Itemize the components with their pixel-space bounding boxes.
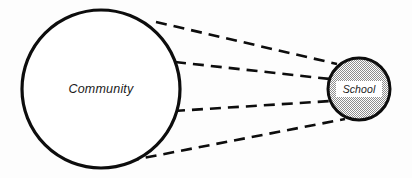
connector-line-2: [175, 62, 330, 79]
connector-line-3: [174, 101, 331, 111]
diagram-canvas: Community School: [0, 0, 412, 178]
community-label: Community: [68, 82, 134, 96]
node-school[interactable]: School: [327, 57, 391, 121]
community-school-diagram: Community School: [0, 0, 412, 178]
connector-line-1: [156, 22, 337, 64]
node-community[interactable]: Community: [22, 10, 180, 168]
school-label: School: [343, 83, 376, 95]
